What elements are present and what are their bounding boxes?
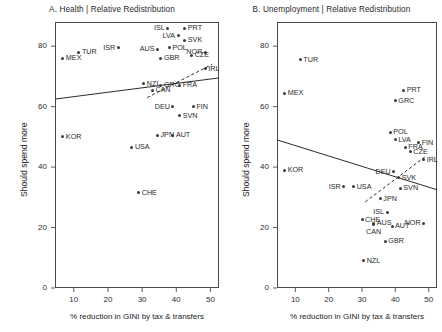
data-point-label: POL [172, 44, 186, 51]
data-point [389, 131, 392, 134]
data-point [192, 105, 195, 108]
data-point [394, 99, 397, 102]
data-point-label: GBR [388, 238, 404, 245]
data-point-label: SVK [402, 174, 416, 181]
panel-a-y-axis-title: Should spend more [19, 122, 29, 197]
data-point-label: AUT [176, 132, 190, 139]
data-point-label: JPN [383, 195, 397, 202]
data-point [156, 134, 159, 137]
data-point [422, 222, 425, 225]
data-point-label: TUR [82, 49, 97, 56]
y-tick-label: 20 [25, 223, 47, 232]
data-point-label: FRA [183, 82, 197, 89]
x-tick-label: 50 [198, 295, 222, 304]
y-tick-label: 60 [25, 102, 47, 111]
data-point-label: SVN [403, 185, 418, 192]
x-tick-label: 20 [317, 295, 341, 304]
data-point-label: PRT [188, 24, 202, 31]
x-tick-label: 10 [283, 295, 307, 304]
data-point-label: SVN [183, 112, 198, 119]
data-point-label: PRT [407, 86, 421, 93]
x-tick-label: 50 [417, 295, 441, 304]
data-point-label: CZE [413, 148, 427, 155]
y-tick-label: 0 [247, 283, 269, 292]
data-point-label: FIN [422, 139, 434, 146]
data-point-label: FIN [196, 103, 208, 110]
data-point [402, 89, 405, 92]
data-point-label: ISR [329, 183, 341, 190]
data-point-label: DEU [375, 168, 390, 175]
data-point [117, 46, 120, 49]
y-tick-label: 80 [25, 41, 47, 50]
data-point [404, 146, 407, 149]
data-point-label: CAN [155, 86, 170, 93]
data-point [177, 34, 180, 37]
data-point-label: TUR [303, 56, 318, 63]
panel-b-x-axis-title: % reduction in GINI by tax & transfers [237, 312, 442, 321]
data-point [190, 54, 193, 57]
data-point-label: AUS [377, 219, 392, 226]
x-tick-label: 20 [96, 295, 120, 304]
data-point [399, 187, 402, 190]
data-point-label: LVA [162, 32, 175, 39]
data-point-label: IRL [208, 65, 219, 72]
panel-b-unemployment: B. Unemployment | Relative Redistributio… [221, 0, 442, 332]
data-point-label: NZL [367, 257, 381, 264]
y-tick-label: 20 [247, 223, 269, 232]
data-point-label: DEU [155, 103, 170, 110]
panel-b-y-axis-title: Should spend more [241, 122, 251, 197]
data-point [156, 48, 159, 51]
data-point-label: NOR [405, 219, 421, 226]
x-tick-label: 40 [164, 295, 188, 304]
data-point [384, 240, 387, 243]
data-point [391, 225, 394, 228]
data-point-label: CZE [195, 52, 209, 59]
data-point-label: GRC [398, 97, 414, 104]
y-tick-label: 80 [247, 41, 269, 50]
panel-a-health: A. Health | Relative Redistribution MEXT… [0, 0, 224, 332]
x-tick-label: 10 [62, 295, 86, 304]
data-point [166, 27, 169, 30]
data-point-label: CAN [366, 228, 381, 235]
data-point-label: ISR [103, 44, 115, 51]
y-tick-label: 0 [25, 283, 47, 292]
data-point [183, 27, 186, 30]
data-point [283, 92, 286, 95]
data-point-label: AUS [140, 46, 155, 53]
data-point [151, 89, 154, 92]
x-tick-label: 40 [383, 295, 407, 304]
data-point-label: KOR [288, 167, 304, 174]
data-point-label: KOR [66, 133, 82, 140]
data-point-label: USA [135, 144, 150, 151]
data-point-label: MEX [288, 89, 304, 96]
data-point-label: IRL [427, 156, 438, 163]
y-tick-label: 40 [247, 162, 269, 171]
data-point [283, 169, 286, 172]
x-tick-label: 30 [350, 295, 374, 304]
data-point-label: GBR [164, 55, 180, 62]
data-point-label: MEX [66, 55, 82, 62]
data-point-label: USA [357, 183, 372, 190]
figure-two-panel-scatter: A. Health | Relative Redistribution MEXT… [0, 0, 442, 332]
y-tick-label: 40 [25, 162, 47, 171]
data-point-label: SVK [188, 37, 202, 44]
data-point [386, 211, 389, 214]
y-tick-label: 60 [247, 102, 269, 111]
x-tick-label: 30 [130, 295, 154, 304]
data-point-label: CHE [142, 189, 157, 196]
